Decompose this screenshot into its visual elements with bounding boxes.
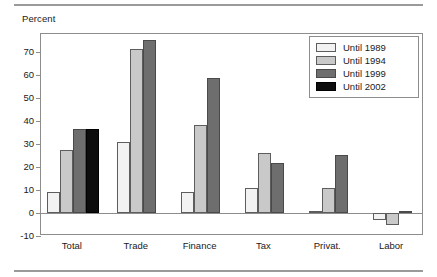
bar [73,129,86,213]
bar [271,163,284,214]
y-axis-tick-label: 0 [29,207,34,218]
y-axis-tick-label: 70 [23,46,34,57]
legend-swatch-icon [316,43,336,52]
y-axis-tick [36,98,41,99]
legend-item-label: Until 1989 [343,42,386,53]
legend-item[interactable]: Until 1999 [316,67,413,80]
chart-legend: Until 1989Until 1994Until 1999Until 2002 [309,36,419,98]
y-axis-tick [36,121,41,122]
y-axis-tick [36,144,41,145]
bar [60,150,73,213]
bar [335,155,348,214]
y-axis-tick [36,190,41,191]
legend-item[interactable]: Until 1994 [316,54,413,67]
bar [258,153,271,213]
bar [47,192,60,213]
chart-figure: Percent -10010203040506070 TotalTradeFin… [0,0,437,277]
zero-baseline [41,213,422,214]
x-axis-tick-label: Labor [379,240,403,251]
legend-item[interactable]: Until 2002 [316,80,413,93]
legend-swatch-icon [316,82,336,91]
bar [309,211,322,213]
bar [386,213,399,224]
x-axis-tick-label: Total [62,240,82,251]
bar [373,213,386,220]
bar [399,211,412,213]
legend-item-label: Until 1999 [343,68,386,79]
y-axis-tick-labels: -10010203040506070 [0,33,34,235]
y-axis-tick [36,75,41,76]
y-axis-tick-label: 50 [23,92,34,103]
x-axis-tick-label: Finance [183,240,217,251]
y-axis-tick-label: 20 [23,161,34,172]
legend-item-label: Until 2002 [343,81,386,92]
bar [194,125,207,213]
y-axis-tick [36,213,41,214]
y-axis-tick [36,236,41,237]
bar [86,129,99,213]
top-divider-rule [14,4,423,6]
y-axis-tick [36,167,41,168]
legend-item-label: Until 1994 [343,55,386,66]
y-axis-tick-label: 60 [23,69,34,80]
legend-item[interactable]: Until 1989 [316,41,413,54]
bar [117,142,130,213]
bottom-divider-rule [14,270,423,272]
y-axis-tick-label: -10 [20,230,34,241]
y-axis-title: Percent [22,13,55,24]
bar [322,188,335,213]
bar [143,40,156,213]
y-axis-tick-label: 40 [23,115,34,126]
y-axis-tick-label: 10 [23,184,34,195]
y-axis-tick-label: 30 [23,138,34,149]
x-axis-tick-label: Trade [124,240,148,251]
x-axis-tick-label: Tax [256,240,271,251]
bar [181,192,194,213]
bar [245,188,258,213]
bar [207,78,220,213]
y-axis-tick [36,52,41,53]
legend-swatch-icon [316,69,336,78]
bar [130,49,143,213]
legend-swatch-icon [316,56,336,65]
x-axis-tick-label: Privat. [314,240,341,251]
